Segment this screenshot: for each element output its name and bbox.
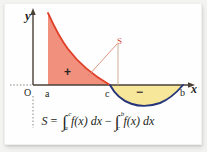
tick-label-b: b [180, 88, 185, 98]
integral-lower-limit-second: c [117, 125, 120, 132]
formula-equals: = [51, 114, 58, 128]
y-axis-arrowhead [30, 8, 35, 15]
callout-leader-to-positive-region [88, 44, 117, 76]
tick-label-a: a [45, 89, 49, 99]
y-axis-label: y [25, 9, 31, 22]
area-formula: S = ∫ca f(x) dx−∫bc f(x) dx [0, 113, 196, 130]
figure-container: y x O a c b S + − S = ∫ca f(x) dx−∫bc f(… [0, 0, 207, 152]
x-axis-label: x [191, 83, 197, 95]
integrand-first: f(x) dx [71, 114, 102, 128]
integrand-second: f(x) dx [123, 114, 154, 128]
integral-upper-limit-first: c [68, 111, 71, 118]
formula-lhs: S [42, 114, 48, 128]
negative-sign-label: − [136, 86, 143, 98]
tick-label-c: c [105, 89, 109, 99]
integral-sign-second: ∫bc [115, 113, 120, 130]
integral-lower-limit-first: a [64, 125, 68, 132]
origin-label: O [24, 88, 31, 98]
integral-upper-limit-second: b [121, 111, 125, 118]
formula-operator: − [105, 114, 112, 128]
positive-area-fill [48, 13, 110, 85]
integral-sign-first: ∫ca [62, 113, 67, 130]
callout-label-s: S [117, 37, 122, 46]
positive-sign-label: + [64, 66, 71, 78]
